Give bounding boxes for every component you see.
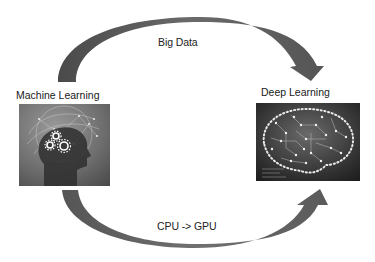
head-with-gears-icon <box>19 104 110 186</box>
node-title-machine-learning: Machine Learning <box>16 89 99 101</box>
edge-label-big-data: Big Data <box>158 36 197 48</box>
deep-learning-image <box>256 103 360 181</box>
node-title-deep-learning: Deep Learning <box>261 86 330 98</box>
circuit-brain-icon <box>256 103 360 181</box>
edge-label-cpu-gpu: CPU -> GPU <box>157 220 216 232</box>
machine-learning-image <box>19 104 110 186</box>
big-data-arrow <box>58 17 324 82</box>
cpu-gpu-arrow <box>62 189 328 248</box>
